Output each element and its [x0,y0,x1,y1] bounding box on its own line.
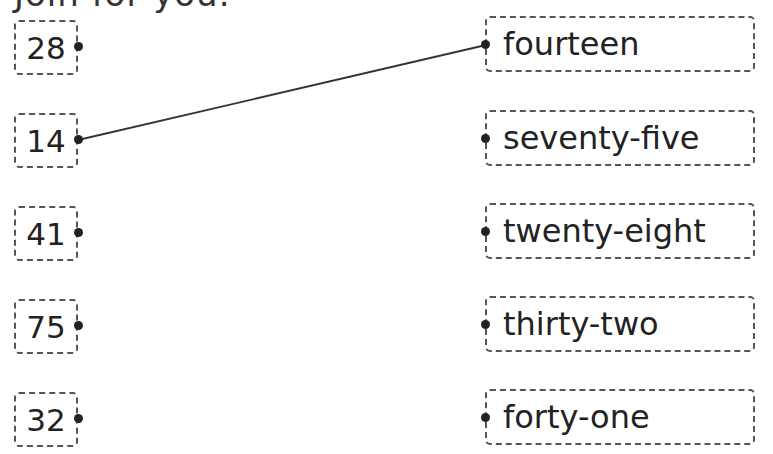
word-dot-2[interactable] [481,134,490,143]
number-box-3[interactable]: 41 [14,206,78,261]
number-label: 14 [26,123,65,159]
word-box-1[interactable]: fourteen [485,16,755,72]
number-label: 41 [26,216,65,252]
number-dot-3[interactable] [74,228,83,237]
word-box-2[interactable]: seventy-five [485,110,755,166]
word-label: fourteen [503,25,639,63]
word-label: twenty-eight [503,212,706,250]
number-dot-2[interactable] [74,135,83,144]
number-box-1[interactable]: 28 [14,20,78,75]
number-dot-1[interactable] [74,42,83,51]
number-label: 32 [26,402,65,438]
number-dot-5[interactable] [74,414,83,423]
word-label: seventy-five [503,119,700,157]
number-box-2[interactable]: 14 [14,113,78,168]
word-dot-4[interactable] [481,320,490,329]
number-label: 75 [26,309,65,345]
word-label: forty-one [503,398,650,436]
word-box-5[interactable]: forty-one [485,389,755,445]
word-dot-1[interactable] [481,40,490,49]
word-box-4[interactable]: thirty-two [485,296,755,352]
number-box-5[interactable]: 32 [14,392,78,447]
number-box-4[interactable]: 75 [14,299,78,354]
number-label: 28 [26,30,65,66]
word-box-3[interactable]: twenty-eight [485,203,755,259]
connection-line-14-fourteen [78,45,486,140]
number-dot-4[interactable] [74,321,83,330]
word-dot-3[interactable] [481,227,490,236]
word-dot-5[interactable] [481,413,490,422]
word-label: thirty-two [503,305,659,343]
